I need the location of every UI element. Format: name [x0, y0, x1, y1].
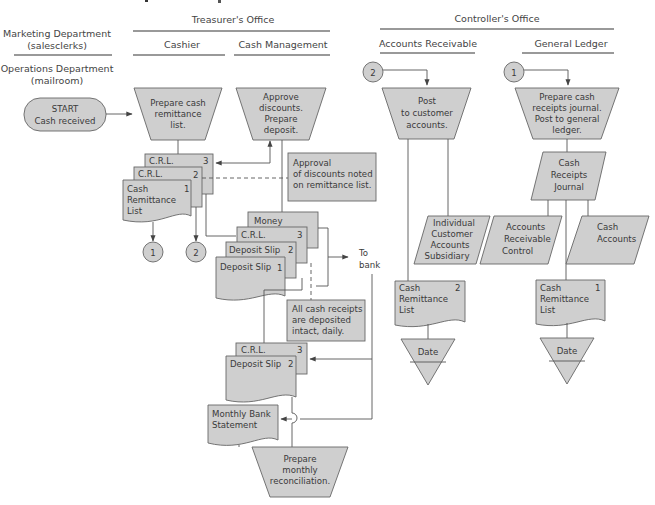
- annotation-approval: Approval of discounts noted on remittanc…: [288, 153, 376, 201]
- svg-text:List: List: [127, 206, 143, 216]
- svg-text:reconciliation.: reconciliation.: [270, 476, 330, 486]
- process-post-customer-accounts: Post to customer accounts.: [382, 88, 471, 139]
- cut-title-fragment: [145, 0, 221, 3]
- svg-text:Operations Department: Operations Department: [1, 63, 114, 74]
- svg-text:Cash: Cash: [540, 283, 561, 293]
- svg-text:receipts journal.: receipts journal.: [532, 103, 601, 113]
- svg-text:(mailroom): (mailroom): [31, 75, 83, 86]
- annotation-intact-deposit: All cash receipts are deposited intact, …: [287, 300, 365, 341]
- svg-text:C.R.L.: C.R.L.: [241, 345, 266, 355]
- start-terminal: START Cash received: [24, 98, 106, 131]
- svg-text:1: 1: [511, 68, 516, 78]
- connector-line: [300, 274, 372, 419]
- svg-text:1: 1: [277, 263, 282, 273]
- svg-text:Prepare: Prepare: [264, 114, 297, 124]
- annotation-to-bank: To bank: [358, 248, 380, 270]
- svg-text:To: To: [358, 248, 368, 258]
- process-prepare-journal: Prepare cash receipts journal. Post to g…: [515, 88, 619, 139]
- cash-receipts-flowchart: Marketing Department (salesclerks) Opera…: [0, 0, 655, 505]
- svg-text:1: 1: [150, 248, 155, 258]
- svg-text:Statement: Statement: [212, 420, 258, 430]
- svg-text:C.R.L.: C.R.L.: [138, 169, 163, 179]
- svg-text:Approve: Approve: [263, 92, 299, 102]
- arrow: [524, 70, 568, 85]
- svg-text:are deposited: are deposited: [292, 315, 351, 325]
- svg-text:Prepare: Prepare: [283, 454, 316, 464]
- svg-text:discounts.: discounts.: [259, 103, 303, 113]
- svg-text:Accounts: Accounts: [430, 240, 470, 250]
- svg-text:(salesclerks): (salesclerks): [27, 40, 87, 51]
- document-deposit-slip-1: Deposit Slip 1: [216, 257, 285, 300]
- svg-text:Date: Date: [557, 346, 578, 356]
- arrow: [216, 141, 270, 163]
- header-marketing: Marketing Department (salesclerks): [3, 28, 111, 51]
- process-approve-discounts: Approve discounts. Prepare deposit.: [236, 88, 326, 140]
- svg-text:3: 3: [203, 156, 208, 166]
- svg-text:Journal: Journal: [553, 182, 584, 192]
- document-file-deposit-slip-2: Deposit Slip 2: [226, 356, 296, 402]
- svg-text:C.R.L.: C.R.L.: [241, 230, 266, 240]
- connector-line: [206, 194, 236, 236]
- svg-text:intact, daily.: intact, daily.: [292, 326, 344, 336]
- svg-text:2: 2: [288, 359, 293, 369]
- svg-text:2: 2: [288, 245, 293, 255]
- ledger-ar-control: Accounts Receivable Control: [480, 216, 562, 264]
- svg-text:to customer: to customer: [401, 108, 453, 118]
- svg-text:deposit.: deposit.: [264, 125, 298, 135]
- svg-text:on remittance list.: on remittance list.: [293, 180, 371, 190]
- svg-text:Remittance: Remittance: [540, 294, 589, 304]
- header-general-ledger: General Ledger: [534, 38, 607, 49]
- connector-1-in: 1: [504, 62, 524, 82]
- document-crl-1: Cash Remittance List 1: [123, 180, 191, 222]
- svg-text:Remittance: Remittance: [399, 294, 448, 304]
- svg-text:Post to general: Post to general: [535, 114, 600, 124]
- process-prepare-reconciliation: Prepare monthly reconciliation.: [252, 447, 348, 497]
- header-accounts-receivable: Accounts Receivable: [379, 38, 477, 49]
- svg-text:of discounts noted: of discounts noted: [293, 169, 373, 179]
- header-controller: Controller's Office: [454, 13, 539, 24]
- svg-text:Receipts: Receipts: [551, 170, 588, 180]
- svg-text:3: 3: [297, 345, 302, 355]
- document-monthly-bank-statement: Monthly Bank Statement: [208, 405, 278, 445]
- document-ar-crl-2: Cash Remittance List 2: [395, 281, 465, 327]
- svg-text:C.R.L.: C.R.L.: [149, 156, 174, 166]
- file-ar-date: Date: [401, 339, 455, 385]
- svg-text:Prepare cash: Prepare cash: [539, 92, 595, 102]
- svg-text:Cash: Cash: [597, 222, 618, 232]
- connector-1-out: 1: [143, 242, 163, 262]
- svg-text:Receivable: Receivable: [504, 234, 551, 244]
- svg-text:2: 2: [193, 170, 198, 180]
- svg-text:1: 1: [184, 184, 189, 194]
- svg-text:Accounts: Accounts: [506, 222, 546, 232]
- svg-text:Deposit Slip: Deposit Slip: [229, 245, 280, 255]
- svg-text:Individual: Individual: [433, 218, 475, 228]
- svg-text:START: START: [52, 104, 79, 114]
- svg-text:ledger.: ledger.: [552, 125, 581, 135]
- svg-text:Date: Date: [418, 347, 439, 357]
- svg-text:Control: Control: [502, 246, 533, 256]
- svg-text:remittance: remittance: [155, 109, 202, 119]
- svg-text:List: List: [399, 305, 415, 315]
- svg-text:Prepare cash: Prepare cash: [150, 98, 206, 108]
- svg-text:Cash: Cash: [558, 158, 579, 168]
- header-cashier: Cashier: [164, 39, 200, 50]
- svg-text:Approval: Approval: [293, 158, 331, 168]
- header-cash-management: Cash Management: [238, 39, 327, 50]
- document-gl-crl-1: Cash Remittance List 1: [536, 280, 605, 326]
- svg-text:Remittance: Remittance: [127, 195, 176, 205]
- svg-text:2: 2: [193, 248, 198, 258]
- svg-text:All cash receipts: All cash receipts: [292, 304, 363, 314]
- svg-text:List: List: [540, 305, 556, 315]
- svg-text:Accounts: Accounts: [597, 234, 637, 244]
- svg-text:1: 1: [595, 283, 600, 293]
- svg-text:Monthly Bank: Monthly Bank: [212, 409, 271, 419]
- svg-text:Cash: Cash: [127, 184, 148, 194]
- svg-text:Customer: Customer: [431, 229, 473, 239]
- process-prepare-crl: Prepare cash remittance list.: [134, 88, 222, 140]
- svg-text:3: 3: [297, 230, 302, 240]
- svg-text:monthly: monthly: [282, 465, 317, 475]
- svg-text:2: 2: [370, 68, 375, 78]
- svg-text:bank: bank: [359, 260, 380, 270]
- header-operations: Operations Department (mailroom): [1, 63, 114, 86]
- connector-2-in: 2: [363, 62, 383, 82]
